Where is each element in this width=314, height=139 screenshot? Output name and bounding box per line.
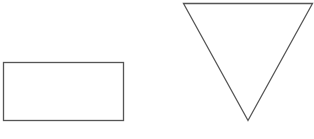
rectangle-shape xyxy=(4,63,124,121)
inverted-triangle-shape xyxy=(184,4,313,121)
diagram-canvas xyxy=(0,0,314,139)
